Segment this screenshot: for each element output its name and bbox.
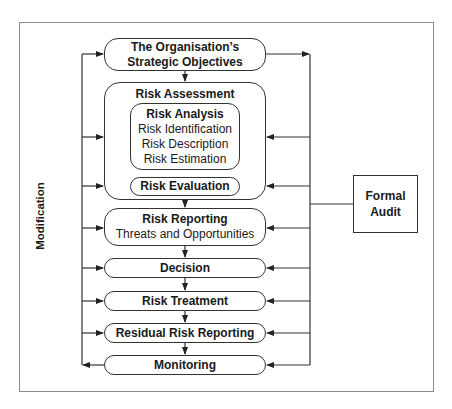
residual-risk-reporting-label: Residual Risk Reporting — [116, 326, 255, 341]
risk-assessment-title: Risk Assessment — [136, 87, 235, 102]
risk-analysis-box: Risk Analysis Risk Identification Risk D… — [130, 103, 240, 170]
monitoring-label: Monitoring — [154, 358, 216, 373]
strategic-objectives-box: The Organisation’s Strategic Objectives — [104, 38, 266, 71]
decision-label: Decision — [160, 261, 210, 276]
modification-label: Modification — [34, 182, 46, 250]
risk-evaluation-box: Risk Evaluation — [130, 177, 240, 196]
risk-treatment-box: Risk Treatment — [104, 291, 266, 311]
risk-analysis-title: Risk Analysis — [146, 107, 224, 122]
risk-treatment-label: Risk Treatment — [142, 294, 228, 309]
risk-reporting-title: Risk Reporting — [142, 212, 227, 227]
monitoring-box: Monitoring — [104, 355, 266, 375]
residual-risk-reporting-box: Residual Risk Reporting — [104, 323, 266, 343]
risk-description-item: Risk Description — [142, 137, 229, 152]
decision-box: Decision — [104, 258, 266, 278]
formal-audit-line-1: Formal — [365, 188, 405, 204]
formal-audit-line-2: Audit — [370, 204, 401, 220]
objectives-line-2: Strategic Objectives — [127, 55, 242, 70]
risk-evaluation-label: Risk Evaluation — [140, 179, 229, 194]
formal-audit-box: Formal Audit — [353, 175, 418, 233]
risk-identification-item: Risk Identification — [138, 122, 232, 137]
risk-reporting-box: Risk Reporting Threats and Opportunities — [104, 208, 266, 246]
risk-estimation-item: Risk Estimation — [144, 152, 227, 167]
risk-reporting-subtitle: Threats and Opportunities — [116, 227, 255, 242]
objectives-line-1: The Organisation’s — [131, 40, 239, 55]
